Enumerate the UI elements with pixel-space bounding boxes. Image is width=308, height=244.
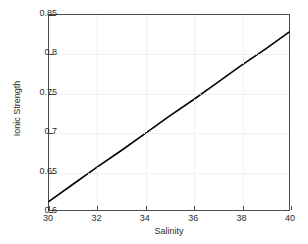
- gridline-horizontal: [49, 54, 289, 55]
- data-line-svg: [49, 15, 289, 210]
- gridline-vertical: [194, 15, 195, 210]
- x-tick-label: 36: [188, 214, 198, 223]
- x-tick-label: 40: [285, 214, 295, 223]
- y-tick-label: 0.7: [44, 127, 57, 136]
- gridline-vertical: [97, 15, 98, 210]
- x-tick-mark: [291, 206, 292, 210]
- gridline-vertical: [243, 15, 244, 210]
- y-axis-label: Ionic Strength: [13, 54, 22, 164]
- x-tick-mark: [146, 206, 147, 210]
- data-series-line: [49, 32, 289, 201]
- gridline-horizontal: [49, 133, 289, 134]
- x-tick-mark: [243, 206, 244, 210]
- y-tick-label: 0.75: [39, 88, 57, 97]
- x-axis-label: Salinity: [48, 227, 290, 236]
- chart-figure: 0.60.650.70.750.80.85 303234363840 Salin…: [0, 0, 308, 244]
- gridline-vertical: [146, 15, 147, 210]
- x-tick-mark: [194, 206, 195, 210]
- x-tick-label: 34: [140, 214, 150, 223]
- x-tick-label: 38: [237, 214, 247, 223]
- y-tick-label: 0.85: [39, 9, 57, 18]
- gridline-horizontal: [49, 94, 289, 95]
- gridline-horizontal: [49, 173, 289, 174]
- x-tick-mark: [97, 206, 98, 210]
- plot-area: [48, 14, 290, 211]
- y-tick-label: 0.65: [39, 167, 57, 176]
- x-tick-label: 30: [43, 214, 53, 223]
- x-tick-label: 32: [91, 214, 101, 223]
- y-tick-label: 0.8: [44, 48, 57, 57]
